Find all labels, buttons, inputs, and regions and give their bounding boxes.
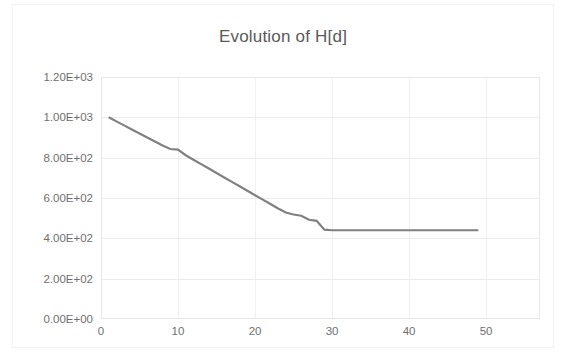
- x-axis-tick-label: 0: [98, 325, 104, 337]
- plot-area: [101, 77, 540, 319]
- y-axis-tick-label: 0.00E+00: [43, 313, 93, 325]
- y-axis-tick-label: 4.00E+02: [43, 232, 93, 244]
- y-axis-tick-label: 1.00E+03: [43, 111, 93, 123]
- x-axis-tick-label: 30: [326, 325, 339, 337]
- chart-title: Evolution of H[d]: [13, 27, 553, 47]
- y-axis-tick-labels: 0.00E+002.00E+024.00E+026.00E+028.00E+02…: [13, 77, 93, 319]
- y-axis-tick-label: 2.00E+02: [43, 273, 93, 285]
- x-axis-tick-label: 40: [403, 325, 416, 337]
- x-axis-tick-labels: 01020304050: [101, 325, 540, 343]
- x-axis-tick-label: 50: [480, 325, 493, 337]
- y-axis-tick-label: 1.20E+03: [43, 71, 93, 83]
- y-axis-tick-label: 8.00E+02: [43, 152, 93, 164]
- data-series-line: [101, 77, 540, 319]
- x-axis-tick-label: 20: [249, 325, 262, 337]
- chart-container: Evolution of H[d] 0.00E+002.00E+024.00E+…: [12, 4, 554, 348]
- y-axis-tick-label: 6.00E+02: [43, 192, 93, 204]
- x-axis-tick-label: 10: [172, 325, 185, 337]
